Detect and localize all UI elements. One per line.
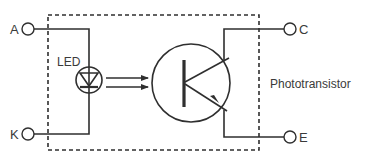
emitter-wire xyxy=(224,110,284,137)
collector-lead xyxy=(185,58,229,82)
label-led: LED xyxy=(57,55,81,69)
label-anode: A xyxy=(10,22,19,37)
label-emitter: E xyxy=(299,130,308,145)
label-collector: C xyxy=(299,22,308,37)
terminal-k xyxy=(22,128,34,140)
emitter-lead xyxy=(185,84,227,111)
collector-wire xyxy=(224,29,284,60)
phototransistor-symbol xyxy=(152,44,230,122)
transistor-body-circle xyxy=(152,44,230,122)
package-boundary xyxy=(48,15,259,150)
terminal-a xyxy=(22,23,34,35)
label-cathode: K xyxy=(10,127,19,142)
terminal-e xyxy=(284,131,296,143)
led-symbol xyxy=(76,67,102,93)
cathode-wire xyxy=(34,93,89,134)
optocoupler-diagram: A K C E LED Phototransistor xyxy=(0,0,366,156)
terminal-c xyxy=(284,23,296,35)
label-phototransistor: Phototransistor xyxy=(270,77,351,91)
